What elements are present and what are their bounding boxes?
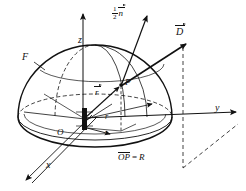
latitude-arc [40, 64, 164, 82]
meridian-arc-back-left [55, 45, 95, 117]
vector-d-symbol: D [176, 27, 183, 37]
source-element-label-s: s [105, 129, 108, 136]
surface-label-tick [41, 61, 46, 66]
z-axis-label: z [78, 35, 82, 45]
bowl-bottom-outline [18, 117, 172, 147]
caption-value: R [139, 152, 145, 162]
x-axis-label: x [46, 160, 50, 170]
hemisphere-dome-outline [18, 45, 172, 117]
vector-label-d: D [176, 27, 183, 37]
equator-back-arc [18, 94, 172, 117]
vector-n-symbol: n [119, 9, 124, 18]
y-axis-label: y [215, 103, 219, 113]
surface-label-f: F [22, 52, 28, 62]
caption-equals: = [130, 152, 139, 162]
vector-r-symbol: r [95, 88, 99, 97]
vector-label-r: r [95, 88, 99, 97]
figure-canvas: z y x F O P r s D r 1 2 n OP=R [0, 0, 246, 191]
position-vector-r [85, 87, 119, 118]
fraction-denominator: 2 [112, 13, 118, 21]
base-projection-line-2 [121, 124, 136, 131]
caption-op-equals-r: OP=R [118, 152, 145, 162]
caption-segment: OP [118, 152, 130, 162]
origin-label-o: O [57, 128, 64, 137]
d-projection-diagonal-dashed [183, 124, 238, 168]
radius-label-r: r [105, 113, 108, 121]
vector-label-half-n: 1 2 n [112, 6, 123, 21]
point-label-p: P [125, 78, 131, 87]
